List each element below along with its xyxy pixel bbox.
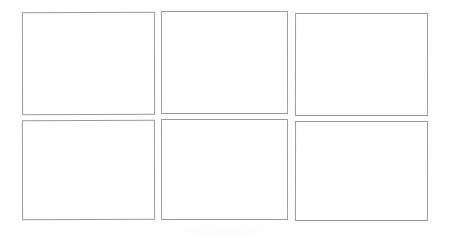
cell-r2c2[interactable] bbox=[161, 119, 288, 220]
scanned-page bbox=[0, 0, 449, 238]
cell-r1c3[interactable] bbox=[295, 13, 428, 116]
cell-r2c1[interactable] bbox=[22, 120, 155, 220]
cell-r2c3-text bbox=[296, 122, 427, 220]
cell-r2c1-text bbox=[23, 121, 154, 219]
cell-r1c2-text bbox=[162, 12, 287, 113]
cell-r2c3[interactable] bbox=[295, 121, 428, 221]
cell-r2c2-text bbox=[162, 120, 287, 219]
cell-r1c2[interactable] bbox=[161, 11, 288, 114]
cell-r1c1[interactable] bbox=[22, 12, 155, 115]
cell-r1c3-text bbox=[296, 14, 427, 115]
cell-r1c1-text bbox=[23, 13, 154, 114]
